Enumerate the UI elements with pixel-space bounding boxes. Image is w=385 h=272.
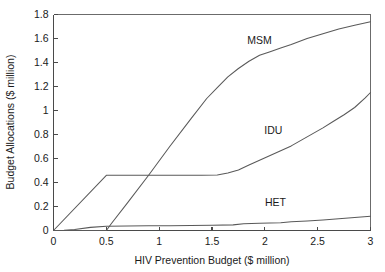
series-label-idu: IDU [264, 124, 282, 136]
data-series-group [54, 22, 371, 231]
y-tick-label: 0 [43, 224, 49, 236]
axis-tick-labels: 00.20.40.60.811.21.41.61.800.511.522.53 [34, 8, 374, 246]
y-axis-title: Budget Allocations ($ million) [4, 55, 16, 190]
y-tick-label: 0.6 [34, 152, 49, 164]
y-tick-label: 0.4 [34, 176, 49, 188]
x-tick-label: 2 [262, 235, 268, 247]
y-tick-label: 0.8 [34, 128, 49, 140]
x-tick-label: 0.5 [99, 235, 114, 247]
y-tick-label: 1.2 [34, 80, 49, 92]
x-tick-label: 0 [51, 235, 57, 247]
x-tick-label: 3 [368, 235, 374, 247]
series-inline-labels: MSMIDUHET [247, 34, 286, 208]
y-tick-label: 1.4 [34, 56, 49, 68]
y-tick-label: 1 [43, 104, 49, 116]
series-label-het: HET [265, 196, 287, 208]
y-tick-label: 1.6 [34, 32, 49, 44]
line-chart-plot: 00.20.40.60.811.21.41.61.800.511.522.53 … [0, 0, 385, 272]
chart-frame [54, 15, 371, 231]
chart-figure: 00.20.40.60.811.21.41.61.800.511.522.53 … [0, 0, 385, 272]
series-line-msm [54, 22, 371, 231]
series-label-msm: MSM [247, 34, 272, 46]
x-tick-label: 2.5 [310, 235, 325, 247]
x-tick-label: 1.5 [205, 235, 220, 247]
axis-lines [54, 15, 371, 231]
x-tick-label: 1 [156, 235, 162, 247]
chart-axes [54, 15, 371, 231]
plot-frame-border [54, 15, 371, 231]
axis-ticks [54, 15, 371, 231]
y-tick-label: 1.8 [34, 8, 49, 20]
y-tick-label: 0.2 [34, 200, 49, 212]
series-line-idu [54, 93, 371, 231]
x-axis-title: HIV Prevention Budget ($ million) [134, 254, 289, 266]
